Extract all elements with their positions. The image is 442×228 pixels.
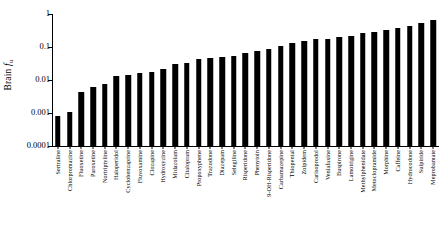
bar-slot [204, 14, 216, 146]
bar [55, 116, 61, 146]
bar [137, 73, 143, 146]
x-axis-tick-mark [93, 146, 94, 149]
x-axis-tick-mark [198, 146, 199, 149]
x-axis-tick-label-slot: Caffeine [392, 150, 404, 228]
x-axis-tick-label: Hydroxyzine [160, 150, 166, 183]
x-axis-tick-mark [104, 146, 105, 149]
bar-slot [357, 14, 369, 146]
x-axis-tick-label: Buspirone [336, 150, 342, 176]
bar [184, 63, 190, 146]
bar-slot [392, 14, 404, 146]
bar-slot [263, 14, 275, 146]
bar [337, 37, 343, 146]
x-axis-tick-label: Sulpiride [418, 150, 424, 173]
bar [149, 72, 155, 146]
bar-slot [310, 14, 322, 146]
x-axis-tick-mark [339, 146, 340, 149]
x-axis-tick-mark [128, 146, 129, 149]
x-axis-tick-label: Morphine [383, 150, 389, 175]
bar-slot [369, 14, 381, 146]
bar [208, 58, 214, 146]
bar-slot [193, 14, 205, 146]
x-axis-tick-mark [69, 146, 70, 149]
x-axis-tick-label: Clozapine [148, 150, 154, 176]
bar-slot [322, 14, 334, 146]
x-axis-tick-label-slot: Trazodone [204, 150, 216, 228]
x-axis-tick-label: Propoxyphene [195, 150, 201, 186]
x-axis-tick-label: Caffeine [395, 150, 401, 172]
x-axis-tick-mark [268, 146, 269, 149]
bar-slot [228, 14, 240, 146]
bar-slot [404, 14, 416, 146]
bar-slot [287, 14, 299, 146]
bar-slot [380, 14, 392, 146]
bar [266, 49, 272, 146]
x-axis-tick-label: Cyclobenzaprine [125, 150, 131, 193]
bar [383, 30, 389, 146]
x-axis-tick-mark [327, 146, 328, 149]
bar-slot [52, 14, 64, 146]
x-axis-tick-mark [257, 146, 258, 149]
x-axis-tick-label: Meprobamate [430, 150, 436, 185]
bar [172, 64, 178, 146]
x-axis-tick-label: 9-OH-Risperidone [266, 150, 272, 197]
bar-slot [251, 14, 263, 146]
x-axis-tick-label-slot: Risperidone [240, 150, 252, 228]
x-axis-tick-mark [362, 146, 363, 149]
bar-slot [169, 14, 181, 146]
x-axis-tick-label-slot: Phenytoin [251, 150, 263, 228]
bar-slot [427, 14, 439, 146]
x-axis-tick-mark [233, 146, 234, 149]
x-axis-tick-label-slot: Lamotrigine [345, 150, 357, 228]
bar [231, 56, 237, 146]
x-axis-tick-label-slot: 9-OH-Risperidone [263, 150, 275, 228]
bar-slot [181, 14, 193, 146]
x-axis-tick-mark [57, 146, 58, 149]
bar-slot [333, 14, 345, 146]
x-axis-tick-label-slot: Thiopental [287, 150, 299, 228]
bar-slot [87, 14, 99, 146]
bar-slot [134, 14, 146, 146]
x-axis-tick-mark [222, 146, 223, 149]
bar [395, 28, 401, 146]
x-axis-tick-mark [175, 146, 176, 149]
bar-slot [158, 14, 170, 146]
x-axis-tick-mark [163, 146, 164, 149]
bar [407, 26, 413, 146]
bar [290, 43, 296, 146]
x-axis-tick-label-slot: Diazepam [216, 150, 228, 228]
x-axis-tick-label-slot: Cyclobenzaprine [122, 150, 134, 228]
bar [301, 41, 307, 146]
x-axis-tick-mark [292, 146, 293, 149]
bar [114, 76, 120, 146]
x-axis-tick-mark [397, 146, 398, 149]
bar [161, 69, 167, 146]
x-axis-tick-mark [151, 146, 152, 149]
bar [196, 59, 202, 146]
x-axis-tick-mark [315, 146, 316, 149]
bar-slot [216, 14, 228, 146]
bar-slot [345, 14, 357, 146]
y-axis-title-subscript: u [7, 59, 15, 63]
x-axis-tick-mark [186, 146, 187, 149]
bar [243, 53, 249, 146]
y-axis-title-symbol: f [3, 63, 13, 66]
x-axis-tick-label: Midazolam [172, 150, 178, 179]
x-axis-tick-label: Carbamazepine [277, 150, 283, 189]
bar-series [52, 14, 439, 146]
x-axis-tick-mark [81, 146, 82, 149]
bar-slot [64, 14, 76, 146]
bar-slot [240, 14, 252, 146]
x-axis-tick-label: Fluoxetine [78, 150, 84, 177]
x-axis-tick-label-slot: Hydroxyzine [158, 150, 170, 228]
x-axis-tick-label: Chlorpromazine [66, 150, 72, 191]
x-axis-tick-label: Sertraline [55, 150, 61, 175]
x-axis-tick-label: Nortriptyline [102, 150, 108, 183]
x-axis-tick-mark [421, 146, 422, 149]
x-axis-tick-label: Trazodone [207, 150, 213, 177]
x-axis-tick-label: Metoclopramide [371, 150, 377, 192]
y-axis-title: Brain fu [0, 0, 18, 150]
bar [90, 87, 96, 146]
x-axis-tick-label-slot: Morphine [380, 150, 392, 228]
x-axis-tick-mark [351, 146, 352, 149]
